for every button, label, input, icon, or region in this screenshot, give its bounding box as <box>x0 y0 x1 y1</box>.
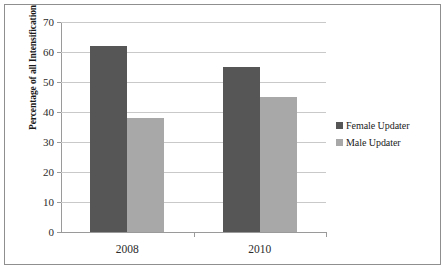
plot-area: 706050403020100 20082010 <box>61 22 326 232</box>
legend-swatch-icon <box>336 122 343 129</box>
y-tick-label: 10 <box>43 196 54 208</box>
chart-legend: Female UpdaterMale Updater <box>336 117 436 151</box>
bar <box>90 46 127 232</box>
y-tick-label: 0 <box>49 226 55 238</box>
bar <box>223 67 260 232</box>
bar-chart-figure: Percentage of all Intensification 706050… <box>0 0 446 270</box>
y-tick-mark <box>57 52 61 53</box>
y-tick-label: 50 <box>43 76 54 88</box>
y-axis-title: Percentage of all Intensification <box>28 0 39 163</box>
legend-label: Male Updater <box>346 137 401 148</box>
y-tick-label: 30 <box>43 136 54 148</box>
y-tick-label: 70 <box>43 16 54 28</box>
legend-item: Female Updater <box>336 117 436 134</box>
legend-item: Male Updater <box>336 134 436 151</box>
y-tick-mark <box>57 22 61 23</box>
y-tick-mark <box>57 202 61 203</box>
gridline <box>61 22 326 23</box>
y-tick-mark <box>57 142 61 143</box>
y-tick-label: 40 <box>43 106 54 118</box>
y-tick-mark <box>57 172 61 173</box>
y-tick-mark <box>57 112 61 113</box>
bar <box>127 118 164 232</box>
y-tick-label: 60 <box>43 46 54 58</box>
y-tick-label: 20 <box>43 166 54 178</box>
legend-swatch-icon <box>336 139 343 146</box>
y-tick-mark <box>57 82 61 83</box>
y-tick-mark <box>57 232 61 233</box>
legend-label: Female Updater <box>346 120 409 131</box>
x-tick-mark <box>194 232 195 237</box>
x-tick-mark <box>326 232 327 237</box>
bar <box>260 97 297 232</box>
x-tick-label: 2010 <box>248 243 271 255</box>
x-tick-label: 2008 <box>116 243 139 255</box>
